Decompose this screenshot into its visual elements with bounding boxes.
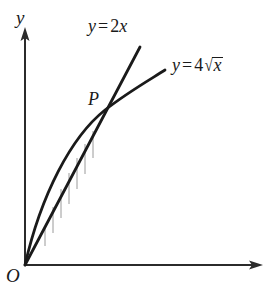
equation-coefficient: 4 (194, 55, 203, 75)
equation-coefficient: 2 (110, 16, 119, 36)
curve-line-2x (25, 47, 140, 265)
origin-label: O (6, 266, 20, 285)
math-figure: y O P y=2x y=4√x (0, 0, 270, 292)
equation-variable: x (119, 16, 127, 36)
radical-group: √x (203, 56, 221, 74)
equation-operator: = (180, 55, 194, 75)
equation-lhs: y (88, 16, 96, 36)
equation-lhs: y (172, 55, 180, 75)
y-axis-label: y (16, 8, 24, 27)
equation-operator: = (96, 16, 110, 36)
equation-label-line: y=2x (88, 17, 127, 35)
equation-label-sqrt-curve: y=4√x (172, 56, 222, 74)
radical-overbar (212, 57, 223, 58)
axis-group (21, 27, 264, 270)
point-p-label: P (88, 90, 99, 108)
figure-canvas (0, 0, 270, 292)
radical-sign-icon: √ (205, 57, 213, 74)
radical-argument: x (214, 55, 222, 75)
